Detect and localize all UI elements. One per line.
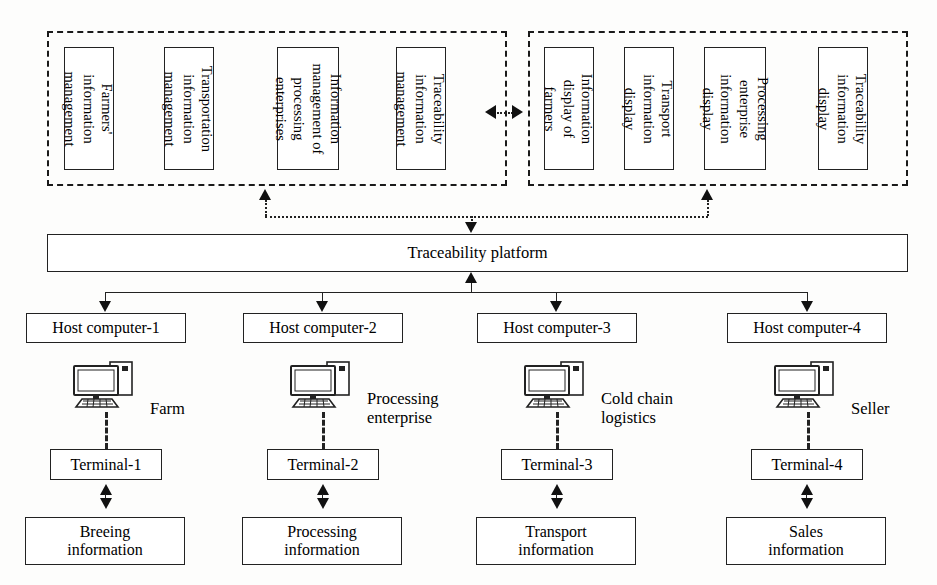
breeing-information-box[interactable]: Breeing information <box>25 517 185 565</box>
pc-to-terminal-link-3 <box>556 412 559 449</box>
display-box-processing-enterprise-information-label: Processingenterpriseinformationdisplay <box>698 74 771 144</box>
desktop-computer-icon-4 <box>767 360 841 418</box>
display-box-processing-enterprise-information[interactable]: Processingenterpriseinformationdisplay <box>704 47 766 170</box>
terminal-3-label: Terminal-3 <box>522 456 593 474</box>
bus-arrow-column-2 <box>316 301 328 312</box>
desktop-computer-icon-2 <box>283 360 357 418</box>
traceability-platform-bar[interactable]: Traceability platform <box>47 234 908 272</box>
groups-to-platform-arrow <box>465 222 477 233</box>
terminal-2-box[interactable]: Terminal-2 <box>267 449 379 480</box>
management-box-transportation-information-label: Transportationinformationmanagement <box>162 65 217 151</box>
management-box-farmers-information[interactable]: Farmers'informationmanagement <box>64 47 114 170</box>
sales-information-box[interactable]: Sales information <box>726 517 886 565</box>
bus-arrow-column-4 <box>801 301 813 312</box>
group-link-dotted-line <box>497 112 513 114</box>
hosts-to-platform-riser <box>471 283 472 292</box>
processing-information-label: Processing information <box>284 523 360 559</box>
traceability-architecture-diagram: Farmers'informationmanagement Transporta… <box>0 0 937 585</box>
bus-arrow-column-3 <box>550 301 562 312</box>
platform-to-display-arrow <box>701 189 713 200</box>
desktop-computer-icon-3 <box>517 360 591 418</box>
host-distribution-bus <box>105 292 807 293</box>
management-box-traceability-information-label: Traceabilityinformationmanagement <box>394 71 449 146</box>
platform-to-management-riser <box>265 200 267 216</box>
platform-to-management-arrow <box>259 189 271 200</box>
bus-riser-column-2 <box>322 292 323 301</box>
hosts-to-platform-arrow <box>465 272 477 283</box>
group-link-arrow-right <box>512 105 523 119</box>
display-box-farmers-information-label: Informationdisplay offarmers <box>542 73 597 143</box>
traceability-platform-label: Traceability platform <box>407 243 547 263</box>
management-box-processing-enterprises[interactable]: Informationmanagement ofprocessingenterp… <box>277 47 339 170</box>
pc-to-terminal-link-2 <box>322 412 325 449</box>
terminal-3-up-arrow <box>551 484 563 495</box>
transport-information-label: Transport information <box>518 523 594 559</box>
management-box-processing-enterprises-label: Informationmanagement ofprocessingenterp… <box>271 63 344 154</box>
bus-riser-column-1 <box>105 292 106 301</box>
transport-information-box[interactable]: Transport information <box>476 517 636 565</box>
breeing-information-label: Breeing information <box>67 523 143 559</box>
terminal-4-up-arrow <box>801 484 813 495</box>
group-link-arrow-left <box>485 105 496 119</box>
host-computer-3-box[interactable]: Host computer-3 <box>477 313 637 343</box>
bus-riser-column-4 <box>807 292 808 301</box>
terminal-2-up-arrow <box>317 484 329 495</box>
role-label-column-3: Cold chain logistics <box>601 390 673 428</box>
pc-to-terminal-link-1 <box>105 412 108 449</box>
processing-information-box[interactable]: Processing information <box>242 517 402 565</box>
bus-riser-column-3 <box>556 292 557 301</box>
terminal-1-label: Terminal-1 <box>71 456 142 474</box>
terminal-4-label: Terminal-4 <box>772 456 843 474</box>
host-computer-4-box[interactable]: Host computer-4 <box>727 313 887 343</box>
role-label-column-1: Farm <box>150 400 185 419</box>
display-box-farmers-information[interactable]: Informationdisplay offarmers <box>544 47 594 170</box>
management-box-traceability-information[interactable]: Traceabilityinformationmanagement <box>396 47 446 170</box>
management-box-farmers-information-label: Farmers'informationmanagement <box>62 71 117 146</box>
display-box-transport-information[interactable]: Transportinformationdisplay <box>624 47 674 170</box>
pc-to-terminal-link-4 <box>807 412 810 449</box>
host-computer-4-label: Host computer-4 <box>753 319 861 337</box>
display-box-traceability-information[interactable]: Traceabilityinformationdisplay <box>818 47 868 170</box>
terminal-1-up-arrow <box>100 484 112 495</box>
terminal-1-box[interactable]: Terminal-1 <box>50 449 162 480</box>
management-box-transportation-information[interactable]: Transportationinformationmanagement <box>164 47 214 170</box>
desktop-computer-icon-1 <box>66 360 140 418</box>
display-box-traceability-information-label: Traceabilityinformationdisplay <box>816 73 871 144</box>
host-computer-1-box[interactable]: Host computer-1 <box>26 313 186 343</box>
host-computer-3-label: Host computer-3 <box>503 319 611 337</box>
terminal-3-down-arrow <box>551 498 563 509</box>
role-label-column-2: Processing enterprise <box>367 390 439 428</box>
terminal-2-label: Terminal-2 <box>288 456 359 474</box>
sales-information-label: Sales information <box>768 523 844 559</box>
platform-to-display-riser <box>707 200 709 216</box>
terminal-4-box[interactable]: Terminal-4 <box>751 449 863 480</box>
bus-arrow-column-1 <box>99 301 111 312</box>
platform-to-groups-dotted-bus <box>265 216 708 218</box>
terminal-3-box[interactable]: Terminal-3 <box>501 449 613 480</box>
terminal-4-down-arrow <box>801 498 813 509</box>
display-box-transport-information-label: Transportinformationdisplay <box>622 74 677 144</box>
terminal-1-down-arrow <box>100 498 112 509</box>
host-computer-2-box[interactable]: Host computer-2 <box>243 313 403 343</box>
terminal-2-down-arrow <box>317 498 329 509</box>
role-label-column-4: Seller <box>851 400 890 419</box>
host-computer-2-label: Host computer-2 <box>269 319 377 337</box>
host-computer-1-label: Host computer-1 <box>52 319 160 337</box>
